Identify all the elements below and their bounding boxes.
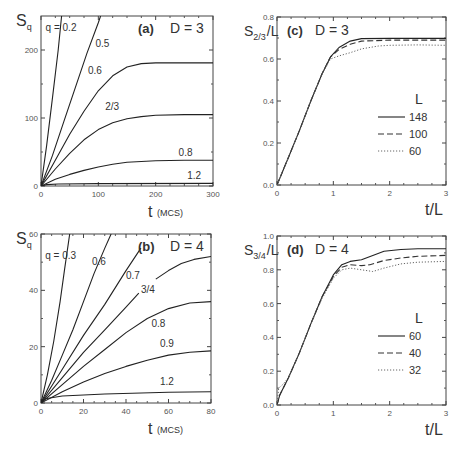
y-tick-label: 0.8 [263, 13, 275, 22]
y-tick-label: 200 [25, 46, 39, 55]
legend-entry-label: 60 [409, 330, 421, 342]
panel-tag: (a) [138, 21, 154, 36]
y-tick-label: 0.2 [263, 367, 275, 376]
curve-label: 0.9 [160, 338, 174, 349]
x-tick-label: 0 [275, 409, 280, 418]
legend-title: L [415, 91, 423, 107]
curve-label: 2/3 [105, 101, 119, 112]
y-tick-label: 60 [29, 230, 38, 239]
x-tick-label: 0 [39, 190, 44, 199]
panel-b: 0204060800204060q = 0.30.60.73/40.80.91.… [16, 230, 216, 437]
curve-label: 1.2 [187, 170, 201, 181]
x-tick-label: 1 [331, 189, 336, 198]
y-tick-label: 0.4 [263, 97, 275, 106]
y-tick-label: 0.6 [263, 55, 275, 64]
panel-a: 01002003000100200q = 0.20.50.62/30.81.2(… [16, 12, 220, 220]
curve-label: 0.6 [88, 65, 102, 76]
x-tick-label: 2 [387, 409, 392, 418]
panel-c: 01230.00.20.40.60.8(c)D = 3S2/3/Lt/LL148… [244, 13, 449, 218]
x-tick-label: 3 [444, 189, 449, 198]
x-tick-label: 2 [387, 189, 392, 198]
y-axis-subscript: q [27, 240, 32, 250]
y-tick-label: 100 [25, 114, 39, 123]
y-tick-label: 0.4 [263, 333, 275, 342]
series-group [277, 249, 446, 405]
y-tick-label: 1.0 [263, 232, 275, 241]
x-tick-label: 60 [164, 407, 173, 416]
curve-label: 0.6 [92, 256, 106, 267]
legend-entry-label: 100 [409, 128, 427, 140]
y-tick-label: 40 [29, 286, 38, 295]
x-tick-label: 3 [444, 409, 449, 418]
y-axis-title: S3/4/L [244, 242, 279, 261]
panel-dimension-label: D = 4 [170, 238, 204, 254]
curve-label: q = 0.3 [45, 250, 76, 261]
series-line [41, 293, 139, 403]
curve-label: 0.8 [152, 318, 166, 329]
y-tick-label: 20 [29, 343, 38, 352]
x-tick-label: 0 [275, 189, 280, 198]
y-tick-label: 0.2 [263, 139, 275, 148]
x-axis-unit: (MCS) [157, 425, 183, 435]
x-axis-title: t (MCS) [148, 203, 183, 220]
curve-label: 0.5 [95, 38, 109, 49]
legend-entry-label: 148 [409, 111, 427, 123]
panel-tag: (c) [287, 23, 303, 38]
legend-entry-label: 40 [409, 347, 421, 359]
x-tick-label: 200 [149, 190, 163, 199]
y-tick-label: 0.0 [263, 181, 275, 190]
series-line [41, 63, 213, 186]
x-tick-label: 100 [92, 190, 106, 199]
x-tick-label: 300 [206, 190, 220, 199]
legend-entry-label: 32 [409, 364, 421, 376]
x-tick-label: 80 [207, 407, 216, 416]
series-line [156, 257, 211, 280]
panel-tag: (d) [287, 242, 304, 257]
series-line [277, 249, 446, 405]
y-tick-label: 0.8 [263, 266, 275, 275]
series-line [41, 16, 62, 186]
panel-tag: (b) [138, 239, 155, 254]
legend-title: L [415, 310, 423, 326]
x-tick-label: 0 [39, 407, 44, 416]
figure: 01002003000100200q = 0.20.50.62/30.81.2(… [0, 0, 464, 452]
curve-label: 0.8 [179, 147, 193, 158]
x-axis-title: t/L [425, 201, 443, 218]
x-axis-title: t/L [425, 421, 443, 438]
curve-label: 3/4 [141, 284, 155, 295]
x-tick-label: 1 [331, 409, 336, 418]
y-axis-subscript: 2/3 [253, 32, 266, 42]
panel-d: 01230.00.20.40.60.81.0(d)D = 4S3/4/Lt/LL… [244, 232, 449, 438]
x-tick-label: 40 [122, 407, 131, 416]
series-line [41, 351, 211, 403]
x-axis-title: t (MCS) [148, 420, 183, 437]
y-tick-label: 0 [34, 399, 39, 408]
x-axis-unit: (MCS) [157, 208, 183, 218]
x-tick-label: 20 [79, 407, 88, 416]
y-tick-label: 0.0 [263, 401, 275, 410]
y-tick-label: 0.6 [263, 300, 275, 309]
y-axis-title: S2/3/L [244, 23, 279, 42]
y-tick-label: 0 [34, 182, 39, 191]
panel-dimension-label: D = 4 [315, 241, 349, 257]
curve-label: q = 0.2 [46, 22, 77, 33]
legend-entry-label: 60 [409, 145, 421, 157]
y-axis-subscript: q [27, 22, 32, 32]
panel-dimension-label: D = 3 [315, 22, 349, 38]
y-axis-title: Sq [16, 12, 32, 32]
curve-label: 1.2 [160, 376, 174, 387]
series-group [41, 16, 213, 186]
y-axis-suffix: /L [267, 23, 279, 39]
curve-label: 0.7 [126, 270, 140, 281]
panel-dimension-label: D = 3 [170, 20, 204, 36]
y-axis-subscript: 3/4 [253, 251, 266, 261]
y-axis-suffix: /L [267, 242, 279, 258]
series-line [41, 302, 211, 403]
